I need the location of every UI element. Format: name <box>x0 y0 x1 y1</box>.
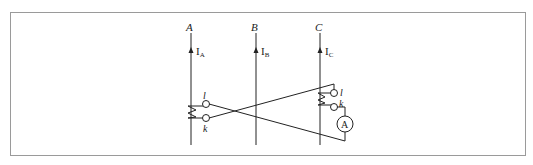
circuit-diagram: A B C IA IB IC l k l k A <box>0 0 533 165</box>
ct-a-terminal-k <box>203 115 210 122</box>
ct-c-terminal-l <box>331 90 338 97</box>
ct-c-terminal-k <box>331 104 338 111</box>
ammeter-label: A <box>341 119 349 130</box>
phase-b-label: B <box>251 21 258 33</box>
phase-a-label: A <box>185 21 193 33</box>
ct-c-l-label: l <box>340 87 343 98</box>
ct-a-k-label: k <box>203 123 208 134</box>
current-a-label: IA <box>196 45 205 59</box>
current-c-label: IC <box>325 45 334 59</box>
arrow-up-icon <box>254 47 259 53</box>
ct-a-l-label: l <box>203 90 206 101</box>
arrow-up-icon <box>318 47 323 53</box>
wire-a-k-to-c-l <box>209 84 334 118</box>
wire-a-l-to-c-bottom <box>209 104 345 141</box>
current-b-label: IB <box>261 45 270 59</box>
phase-c-label: C <box>315 21 323 33</box>
arrow-up-icon <box>189 47 194 53</box>
ct-c-k-label: k <box>339 98 344 109</box>
ct-a-terminal-l <box>203 101 210 108</box>
